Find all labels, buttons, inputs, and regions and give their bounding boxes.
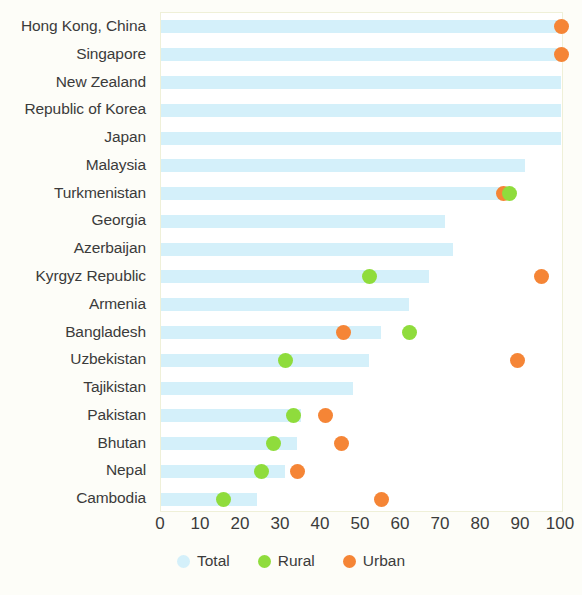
urban-swatch-icon [343,555,356,568]
rural-data-point [278,353,293,368]
chart-row [161,263,562,291]
chart-container: Hong Kong, ChinaSingaporeNew ZealandRepu… [0,0,582,595]
urban-data-point [510,353,525,368]
total-bar [161,493,257,506]
y-axis-label: Kyrgyz Republic [36,262,147,290]
total-bar [161,187,505,200]
y-axis-label: Cambodia [76,484,146,512]
rural-data-point [502,186,517,201]
urban-data-point [374,492,389,507]
chart-row [161,235,562,263]
y-axis-label: Tajikistan [83,373,146,401]
y-axis-label: Turkmenistan [54,179,146,207]
rural-data-point [286,408,301,423]
rural-data-point [402,325,417,340]
y-axis-label: New Zealand [56,68,146,96]
y-axis-label: Republic of Korea [24,95,146,123]
y-axis-label: Armenia [89,290,146,318]
chart-row [161,41,562,69]
total-bar [161,354,369,367]
y-axis-label: Nepal [106,456,146,484]
x-axis-tick: 40 [311,514,330,534]
y-axis-label: Malaysia [86,151,146,179]
total-bar [161,48,561,61]
legend-label: Total [197,552,230,570]
chart-row [161,69,562,97]
urban-data-point [554,19,569,34]
chart-row [161,124,562,152]
y-axis-label: Singapore [76,40,146,68]
total-bar [161,20,561,33]
chart-row [161,180,562,208]
urban-data-point [336,325,351,340]
y-axis-label: Hong Kong, China [21,12,146,40]
chart-row [161,13,562,41]
x-axis-tick-labels: 0102030405060708090100 [160,514,563,544]
chart-row [161,291,562,319]
chart-legend: TotalRuralUrban [0,552,582,570]
y-axis-label: Bangladesh [65,318,146,346]
y-axis-label: Azerbaijan [74,234,146,262]
y-axis-label: Japan [104,123,146,151]
x-axis-tick: 30 [271,514,290,534]
chart-row [161,207,562,235]
y-axis-label: Pakistan [87,401,146,429]
chart-row [161,346,562,374]
x-axis-tick: 60 [391,514,410,534]
x-axis-tick: 70 [431,514,450,534]
total-bar [161,382,353,395]
legend-label: Urban [363,552,405,570]
chart-row [161,152,562,180]
y-axis-label: Bhutan [97,429,146,457]
rural-swatch-icon [258,555,271,568]
x-axis-tick: 20 [231,514,250,534]
urban-data-point [534,269,549,284]
y-axis-category-labels: Hong Kong, ChinaSingaporeNew ZealandRepu… [0,12,152,512]
chart-row [161,457,562,485]
urban-data-point [318,408,333,423]
total-bar [161,104,561,117]
total-bar [161,132,561,145]
total-bar [161,409,301,422]
x-axis-tick: 0 [155,514,164,534]
x-axis-tick: 100 [546,514,574,534]
urban-data-point [290,464,305,479]
legend-item[interactable]: Total [177,552,230,570]
legend-label: Rural [278,552,315,570]
y-axis-label: Georgia [92,206,146,234]
rural-data-point [254,464,269,479]
chart-row [161,430,562,458]
x-axis-tick: 10 [191,514,210,534]
total-bar [161,159,525,172]
chart-row [161,402,562,430]
x-axis-tick: 80 [471,514,490,534]
legend-item[interactable]: Rural [258,552,315,570]
chart-row [161,319,562,347]
urban-data-point [554,47,569,62]
total-swatch-icon [177,555,190,568]
x-axis-tick: 50 [351,514,370,534]
total-bar [161,243,453,256]
total-bar [161,270,429,283]
chart-row [161,96,562,124]
total-bar [161,76,561,89]
x-axis-tick: 90 [511,514,530,534]
chart-row [161,485,562,513]
y-axis-label: Uzbekistan [70,345,146,373]
legend-item[interactable]: Urban [343,552,405,570]
urban-data-point [334,436,349,451]
total-bar [161,215,445,228]
rural-data-point [216,492,231,507]
chart-row [161,374,562,402]
total-bar [161,298,409,311]
rural-data-point [266,436,281,451]
rural-data-point [362,269,377,284]
plot-area [160,12,563,512]
